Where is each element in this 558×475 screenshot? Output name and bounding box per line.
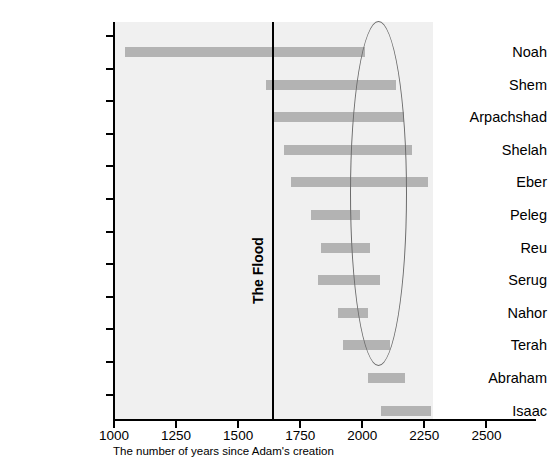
bar-abraham <box>368 373 405 383</box>
flood-annotation-label: The Flood <box>250 237 266 304</box>
bar-noah <box>125 47 365 57</box>
y-tick-terah <box>106 328 115 330</box>
y-tick-serug <box>106 263 115 265</box>
bar-isaac <box>381 406 431 416</box>
x-tick-label-1500: 1500 <box>208 429 268 443</box>
y-axis-label-terah: Terah <box>450 338 558 353</box>
y-axis-label-noah: Noah <box>450 45 558 60</box>
x-tick-label-2000: 2000 <box>332 429 392 443</box>
y-tick-reu <box>106 231 115 233</box>
flood-vertical-line <box>272 22 274 420</box>
y-axis-label-abraham: Abraham <box>450 371 558 386</box>
y-axis-label-eber: Eber <box>450 175 558 190</box>
y-axis-label-serug: Serug <box>450 273 558 288</box>
x-tick-label-2250: 2250 <box>394 429 454 443</box>
y-axis-label-nahor: Nahor <box>450 306 558 321</box>
y-tick-nahor <box>106 296 115 298</box>
y-axis-label-shelah: Shelah <box>450 143 558 158</box>
y-axis-label-peleg: Peleg <box>450 208 558 223</box>
y-tick-shem <box>106 68 115 70</box>
y-tick-noah <box>106 35 115 37</box>
x-tick-1500 <box>237 421 239 428</box>
x-tick-label-1250: 1250 <box>146 429 206 443</box>
y-tick-abraham <box>106 361 115 363</box>
x-tick-1250 <box>175 421 177 428</box>
x-tick-2250 <box>423 421 425 428</box>
y-tick-arpachshad <box>106 100 115 102</box>
x-tick-2500 <box>485 421 487 428</box>
x-tick-label-1750: 1750 <box>270 429 330 443</box>
x-axis-caption: The number of years since Adam's creatio… <box>113 445 334 457</box>
x-tick-2000 <box>361 421 363 428</box>
y-axis-label-reu: Reu <box>450 241 558 256</box>
x-tick-1000 <box>113 421 115 428</box>
highlight-ellipse <box>350 21 407 366</box>
y-axis-label-shem: Shem <box>450 78 558 93</box>
x-tick-1750 <box>299 421 301 428</box>
lifespan-timeline-chart: NoahShemArpachshadShelahEberPelegReuSeru… <box>0 0 558 475</box>
y-axis-label-isaac: Isaac <box>450 404 558 419</box>
y-tick-shelah <box>106 133 115 135</box>
x-tick-label-1000: 1000 <box>84 429 144 443</box>
x-tick-label-2500: 2500 <box>456 429 516 443</box>
y-tick-isaac <box>106 394 115 396</box>
y-tick-peleg <box>106 198 115 200</box>
y-axis-label-arpachshad: Arpachshad <box>450 110 558 125</box>
y-tick-eber <box>106 165 115 167</box>
